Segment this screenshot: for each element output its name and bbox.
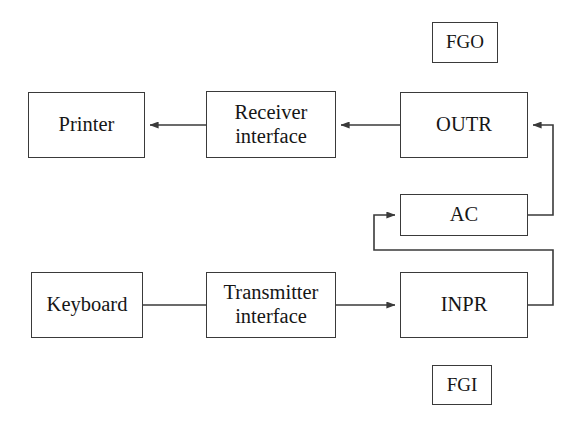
node-printer[interactable]: Printer (28, 92, 145, 158)
node-inpr-label: INPR (437, 293, 492, 317)
node-transmitter[interactable]: Transmitter interface (206, 272, 336, 338)
node-fgi-label: FGI (443, 374, 482, 396)
node-printer-label: Printer (55, 113, 119, 137)
edge-ac-to-outr (528, 125, 553, 215)
diagram-canvas: FGOPrinterReceiver interfaceOUTRACKeyboa… (0, 0, 579, 427)
node-outr[interactable]: OUTR (400, 92, 528, 158)
node-fgi[interactable]: FGI (432, 365, 492, 405)
node-keyboard-label: Keyboard (43, 293, 132, 317)
node-outr-label: OUTR (432, 113, 496, 137)
node-keyboard[interactable]: Keyboard (31, 272, 143, 338)
node-ac[interactable]: AC (400, 194, 528, 236)
node-transmitter-label: Transmitter interface (220, 281, 323, 329)
node-receiver[interactable]: Receiver interface (206, 91, 336, 158)
node-ac-label: AC (446, 203, 482, 227)
node-inpr[interactable]: INPR (400, 272, 528, 338)
node-fgo-label: FGO (442, 31, 488, 53)
node-fgo[interactable]: FGO (432, 22, 498, 63)
node-receiver-label: Receiver interface (231, 101, 312, 149)
